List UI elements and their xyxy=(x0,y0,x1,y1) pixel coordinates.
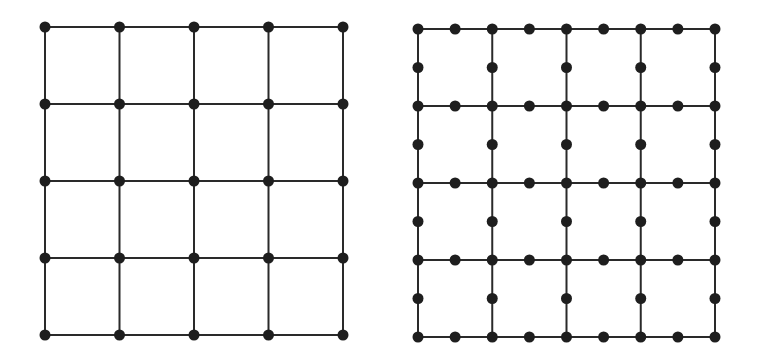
midpoint-node xyxy=(413,62,424,73)
vertex-node xyxy=(263,330,274,341)
vertex-node xyxy=(710,178,721,189)
vertex-node xyxy=(40,330,51,341)
vertex-node xyxy=(413,178,424,189)
vertex-node xyxy=(114,99,125,110)
midpoint-node xyxy=(672,101,683,112)
midpoint-node xyxy=(524,255,535,266)
vertex-node xyxy=(635,101,646,112)
midpoint-node xyxy=(561,216,572,227)
vertex-node xyxy=(338,330,349,341)
vertex-node xyxy=(487,24,498,35)
midpoint-node xyxy=(450,255,461,266)
midpoint-node xyxy=(598,255,609,266)
vertex-node xyxy=(413,255,424,266)
midpoint-node xyxy=(635,216,646,227)
vertex-node xyxy=(263,22,274,33)
midpoint-node xyxy=(524,24,535,35)
midpoint-node xyxy=(710,62,721,73)
midpoint-node xyxy=(413,293,424,304)
vertex-node xyxy=(263,99,274,110)
midpoint-node xyxy=(413,216,424,227)
vertex-node xyxy=(561,24,572,35)
vertex-node xyxy=(487,255,498,266)
vertex-node xyxy=(263,176,274,187)
midpoint-node xyxy=(598,332,609,343)
midpoint-node xyxy=(524,101,535,112)
midpoint-node xyxy=(487,139,498,150)
midpoint-node xyxy=(524,332,535,343)
vertex-node xyxy=(710,24,721,35)
vertex-node xyxy=(635,255,646,266)
coarse-grid xyxy=(40,22,349,341)
midpoint-node xyxy=(672,178,683,189)
vertex-node xyxy=(635,178,646,189)
midpoint-node xyxy=(413,139,424,150)
midpoint-node xyxy=(561,293,572,304)
midpoint-node xyxy=(672,24,683,35)
vertex-node xyxy=(114,176,125,187)
vertex-node xyxy=(413,24,424,35)
vertex-node xyxy=(413,101,424,112)
vertex-node xyxy=(40,99,51,110)
vertex-node xyxy=(413,332,424,343)
midpoint-node xyxy=(487,216,498,227)
midpoint-node xyxy=(710,139,721,150)
vertex-node xyxy=(338,253,349,264)
vertex-node xyxy=(114,253,125,264)
vertex-node xyxy=(338,22,349,33)
midpoint-node xyxy=(635,62,646,73)
vertex-node xyxy=(189,22,200,33)
vertex-node xyxy=(635,24,646,35)
vertex-node xyxy=(487,101,498,112)
midpoint-node xyxy=(450,24,461,35)
grid-nodes xyxy=(413,24,721,343)
vertex-node xyxy=(338,176,349,187)
midpoint-node xyxy=(487,293,498,304)
midpoint-node xyxy=(524,178,535,189)
vertex-node xyxy=(40,176,51,187)
midpoint-node xyxy=(450,101,461,112)
vertex-node xyxy=(710,332,721,343)
vertex-node xyxy=(487,178,498,189)
midpoint-node xyxy=(487,62,498,73)
vertex-node xyxy=(561,332,572,343)
vertex-node xyxy=(338,99,349,110)
vertex-node xyxy=(263,253,274,264)
vertex-node xyxy=(710,255,721,266)
vertex-node xyxy=(710,101,721,112)
vertex-node xyxy=(40,253,51,264)
midpoint-node xyxy=(710,216,721,227)
midpoint-node xyxy=(598,101,609,112)
vertex-node xyxy=(487,332,498,343)
vertex-node xyxy=(561,101,572,112)
midpoint-node xyxy=(635,293,646,304)
midpoint-node xyxy=(598,178,609,189)
vertex-node xyxy=(114,22,125,33)
midpoint-node xyxy=(450,332,461,343)
midpoint-node xyxy=(635,139,646,150)
refined-grid xyxy=(413,24,721,343)
vertex-node xyxy=(40,22,51,33)
vertex-node xyxy=(189,176,200,187)
vertex-node xyxy=(635,332,646,343)
vertex-node xyxy=(189,99,200,110)
diagram-canvas xyxy=(0,0,757,355)
midpoint-node xyxy=(561,62,572,73)
vertex-node xyxy=(189,253,200,264)
vertex-node xyxy=(114,330,125,341)
vertex-node xyxy=(189,330,200,341)
midpoint-node xyxy=(672,255,683,266)
midpoint-node xyxy=(672,332,683,343)
midpoint-node xyxy=(450,178,461,189)
vertex-node xyxy=(561,255,572,266)
midpoint-node xyxy=(710,293,721,304)
midpoint-node xyxy=(598,24,609,35)
midpoint-node xyxy=(561,139,572,150)
vertex-node xyxy=(561,178,572,189)
